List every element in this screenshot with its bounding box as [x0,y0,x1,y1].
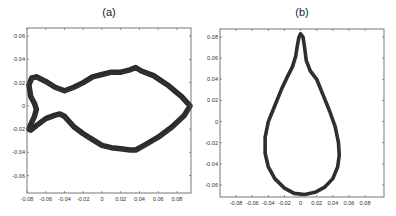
fish-contour-bundle [29,68,190,150]
y-tick-label: 0 [215,119,218,125]
x-tick-label: -0.06 [39,196,52,202]
y-tick-label: 0.06 [14,33,25,39]
fish-contour-trace [30,68,191,150]
figure: (a)-0.08-0.06-0.04-0.0200.020.040.060.08… [0,0,396,216]
x-tick-label: -0.06 [246,200,259,206]
y-tick-label: 0.06 [207,55,218,61]
x-tick-label: 0 [299,200,302,206]
axes-box [27,28,191,193]
x-tick-label: -0.08 [230,200,243,206]
teardrop-contour-trace [266,35,340,196]
y-tick-label: -0.04 [205,161,218,167]
axes-box [220,29,384,197]
chart-title: (b) [295,6,308,18]
x-tick-label: -0.02 [278,200,291,206]
y-tick-label: 0.08 [207,34,218,40]
chart-title: (a) [102,6,115,18]
x-tick-label: -0.04 [262,200,275,206]
x-tick-label: 0.02 [311,200,322,206]
x-tick-label: 0.08 [360,200,371,206]
y-tick-label: -0.02 [12,126,25,132]
x-tick-label: 0.06 [343,200,354,206]
panel-b: (b)-0.08-0.06-0.04-0.0200.020.040.060.08… [205,6,384,206]
x-tick-label: 0.04 [327,200,338,206]
y-tick-label: -0.04 [12,149,25,155]
x-tick-label: 0 [100,196,103,202]
x-tick-label: 0.08 [171,196,182,202]
x-tick-label: -0.08 [21,196,34,202]
y-tick-label: 0.04 [207,76,218,82]
y-tick-label: 0.04 [14,56,25,62]
panel-a: (a)-0.08-0.06-0.04-0.0200.020.040.060.08… [12,6,191,202]
y-tick-label: -0.02 [205,140,218,146]
y-tick-label: -0.06 [205,182,218,188]
x-tick-label: 0.02 [115,196,126,202]
x-tick-label: -0.02 [77,196,90,202]
teardrop-contour-bundle [265,34,339,195]
y-tick-label: 0.02 [207,97,218,103]
y-tick-label: 0.02 [14,80,25,86]
y-tick-label: 0 [22,103,25,109]
y-tick-label: -0.06 [12,173,25,179]
x-tick-label: 0.06 [153,196,164,202]
x-tick-label: 0.04 [134,196,145,202]
x-tick-label: -0.04 [58,196,71,202]
